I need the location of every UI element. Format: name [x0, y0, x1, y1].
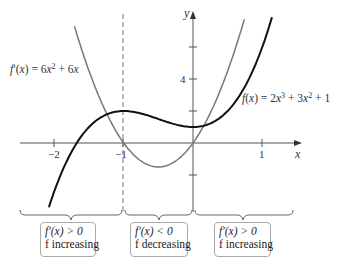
x-axis-arrow-icon [294, 140, 302, 146]
x-tick-label: −2 [48, 148, 60, 160]
interval-condition: f′(x) > 0 [219, 225, 266, 238]
interval-box-1: f′(x) > 0 f increasing [40, 222, 96, 257]
interval-condition: f′(x) < 0 [135, 225, 183, 238]
x-axis-label: x [294, 147, 301, 161]
interval-behavior: f increasing [219, 238, 266, 251]
interval-box-2: f′(x) < 0 f decreasing [130, 222, 188, 257]
interval-condition: f′(x) > 0 [45, 225, 91, 238]
y-tick-label: 4 [180, 73, 186, 85]
interval-behavior: f decreasing [135, 238, 183, 251]
y-axis-arrow-icon [190, 11, 196, 19]
derivative-label: f′(x) = 6x2 + 6x [10, 62, 80, 76]
function-curve [49, 17, 272, 207]
interval-brace [195, 210, 293, 220]
x-tick-label: 1 [259, 148, 265, 160]
interval-box-3: f′(x) > 0 f increasing [214, 222, 271, 257]
derivative-curve [75, 19, 245, 167]
interval-brace [20, 210, 122, 220]
y-axis-label: y [183, 6, 190, 20]
x-tick-label: −1 [115, 148, 127, 160]
interval-brace [125, 210, 192, 220]
function-label: f(x) = 2x3 + 3x2 + 1 [242, 91, 330, 105]
interval-behavior: f increasing [45, 238, 91, 251]
